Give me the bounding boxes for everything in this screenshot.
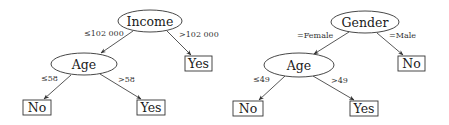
edge-label: >58 [118, 75, 135, 84]
leaf-label: No [402, 56, 420, 71]
leaf-label: Yes [140, 100, 162, 115]
node-age-label: Age [71, 57, 96, 72]
edge-label: =Male [389, 31, 416, 40]
node-gender-label: Gender [342, 15, 389, 30]
node-age-label: Age [286, 58, 311, 73]
edge-label: ≤58 [41, 74, 58, 83]
edge-label: >49 [331, 76, 348, 85]
edge-label: >102 000 [179, 30, 219, 39]
edge-label: ≤102 000 [84, 29, 124, 38]
node-income-label: Income [127, 14, 174, 29]
leaf-label: Yes [187, 56, 209, 71]
decision-trees-diagram: Income Age Yes No Yes ≤102 000 >102 000 … [0, 0, 449, 125]
edge-label: =Female [297, 31, 333, 40]
tree-income: Income Age Yes No Yes ≤102 000 >102 000 … [23, 10, 219, 115]
edge-label: ≤49 [253, 75, 270, 84]
tree-gender: Gender Age No No Yes =Female =Male ≤49 >… [233, 11, 425, 116]
leaf-label: Yes [353, 101, 375, 116]
leaf-label: No [28, 100, 46, 115]
leaf-label: No [239, 101, 257, 116]
